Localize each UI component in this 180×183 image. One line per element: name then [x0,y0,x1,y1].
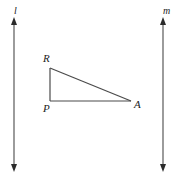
line-m-label: m [163,6,170,16]
vertex-label-P: P [43,103,50,114]
vertex-label-R: R [43,53,50,64]
line-l [11,17,17,172]
line-l-label: l [14,6,17,16]
line-m-arrowhead-top [160,17,166,25]
side-RA [50,68,131,101]
line-m-arrowhead-bottom [160,164,166,172]
line-m [160,17,166,172]
line-l-arrowhead-bottom [11,164,17,172]
geometry-figure: l m R P A [0,0,180,183]
line-l-arrowhead-top [11,17,17,25]
figure-canvas [0,0,180,183]
vertex-label-A: A [134,99,141,110]
triangle-PRA [50,68,131,101]
